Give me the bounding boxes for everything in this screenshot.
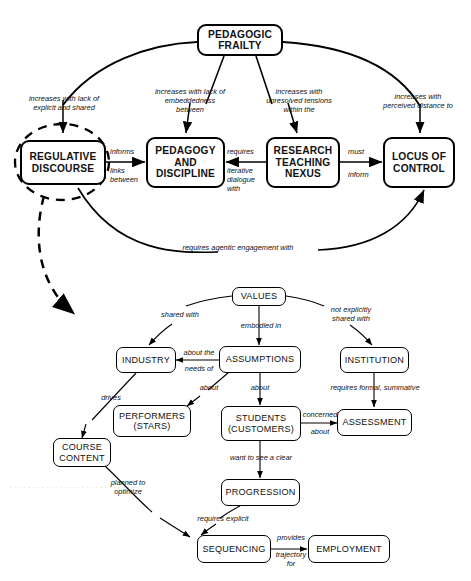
node-locus-of-control[interactable]: LOCUS OF CONTROL: [383, 137, 455, 188]
concept-map-canvas: . . . . . . . . . . . . . . . . . . . . …: [0, 0, 471, 581]
node-sequencing-label: SEQUENCING: [202, 544, 265, 554]
edge-label-students-about: about: [300, 428, 340, 437]
edge-label-frailty-to-pedagogy: increases with lack of embeddedness betw…: [142, 88, 238, 115]
edge-label-regulative-informs: informs: [110, 148, 148, 157]
edge-label-values-embodied-in: embodied in: [233, 322, 289, 331]
edge-values-not-shared-arrow: [350, 325, 372, 345]
edge-label-students-concerned: concerned: [300, 411, 340, 420]
edge-label-nexus-must: must: [348, 148, 382, 157]
edge-label-sequencing-provides: provides: [271, 534, 311, 543]
edge-course-content-to-sequencing-arrow: [160, 518, 190, 537]
edge-assumptions-to-performers-arrow: [187, 396, 200, 406]
edge-label-pedagogy-requires: requires: [227, 148, 267, 157]
node-progression-label: PROGRESSION: [226, 487, 296, 497]
node-institution[interactable]: INSTITUTION: [340, 347, 409, 373]
edge-label-assumptions-about-the: about the: [180, 349, 218, 358]
edge-label-assumptions-about-performers: about: [194, 384, 224, 393]
node-sequencing[interactable]: SEQUENCING: [197, 535, 271, 563]
edge-agentic-engagement-arrow: [318, 190, 424, 250]
edge-label-assumptions-needs-of: needs of: [180, 365, 218, 374]
edge-label-pedagogy-iterative-dialogue: iterative dialogue with: [227, 167, 267, 194]
edge-label-nexus-inform: inform: [348, 171, 382, 180]
node-industry-label: INDUSTRY: [122, 355, 170, 365]
node-pedagogic-frailty-label: PEDAGOGIC FRAILTY: [199, 29, 281, 52]
edge-label-course-content-planned-to-optimize: planned to optimize: [103, 479, 153, 497]
node-assumptions-label: ASSUMPTIONS: [226, 354, 294, 364]
edge-label-values-not-explicitly-shared: not explicitly shared with: [318, 306, 384, 324]
edge-label-regulative-links-between: links between: [110, 167, 150, 185]
edge-label-industry-drives: drives: [93, 394, 129, 403]
node-progression[interactable]: PROGRESSION: [221, 479, 300, 506]
node-industry[interactable]: INDUSTRY: [116, 347, 176, 373]
node-students-customers[interactable]: STUDENTS (CUSTOMERS): [221, 406, 301, 441]
edge-label-values-shared-with: shared with: [150, 311, 210, 320]
node-pedagogy-and-discipline-label: PEDAGOGY AND DISCIPLINE: [148, 145, 223, 179]
node-course-content-label: COURSE CONTENT: [54, 442, 110, 462]
edge-label-assumptions-about-students: about: [245, 384, 275, 393]
edge-label-frailty-to-locus: increases with perceived distance to: [368, 93, 468, 111]
node-course-content[interactable]: COURSE CONTENT: [53, 438, 111, 467]
edge-label-frailty-to-nexus: increases with unresolved tensions withi…: [251, 88, 347, 115]
node-institution-label: INSTITUTION: [345, 355, 404, 365]
edge-values-to-industry: [186, 296, 232, 306]
edge-label-frailty-to-regulative: increases with lack of explicit and shar…: [12, 95, 116, 113]
node-locus-of-control-label: LOCUS OF CONTROL: [385, 151, 453, 174]
edge-industry-to-course-content-arrow: [82, 424, 86, 438]
edge-label-students-want-to-see-a-clear: want to see a clear: [217, 454, 305, 463]
edge-progression-to-sequencing-arrow: [201, 524, 216, 535]
node-performers-stars-label: PERFORMERS (STARS): [114, 411, 190, 431]
node-regulative-discourse-label: REGULATIVE DISCOURSE: [22, 151, 104, 174]
edge-label-institution-requires-formal-summative: requires formal, summative: [327, 384, 423, 393]
edge-values-to-institution: [286, 296, 324, 306]
node-assessment[interactable]: ASSESSMENT: [337, 409, 412, 436]
edge-label-sequencing-trajectory-for: trajectory for: [271, 551, 311, 569]
edge-values-shared-with-arrow: [149, 324, 172, 345]
node-employment[interactable]: EMPLOYMENT: [308, 535, 390, 563]
node-pedagogic-frailty[interactable]: PEDAGOGIC FRAILTY: [197, 24, 283, 56]
node-performers-stars[interactable]: PERFORMERS (STARS): [113, 405, 191, 437]
node-research-teaching-nexus[interactable]: RESEARCH TEACHING NEXUS: [266, 137, 340, 188]
node-students-customers-label: STUDENTS (CUSTOMERS): [222, 413, 300, 433]
edge-dashed-regulative-to-industry: [39, 196, 72, 312]
node-values-label: VALUES: [241, 291, 277, 301]
node-values[interactable]: VALUES: [232, 287, 286, 306]
edge-label-agentic-engagement: requires agentic engagement with: [178, 244, 298, 253]
node-employment-label: EMPLOYMENT: [316, 544, 382, 554]
node-research-teaching-nexus-label: RESEARCH TEACHING NEXUS: [268, 145, 338, 179]
node-assumptions[interactable]: ASSUMPTIONS: [219, 346, 301, 373]
node-regulative-discourse[interactable]: REGULATIVE DISCOURSE: [20, 140, 106, 185]
edge-label-progression-requires-explicit: requires explicit: [193, 515, 253, 524]
node-assessment-label: ASSESSMENT: [342, 417, 406, 427]
node-pedagogy-and-discipline[interactable]: PEDAGOGY AND DISCIPLINE: [146, 137, 225, 188]
